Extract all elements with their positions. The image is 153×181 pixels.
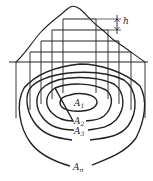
contour-an [19, 64, 144, 166]
profile-curve [16, 6, 145, 62]
contour-label-an: An [72, 162, 84, 173]
contour-label-a3: A3 [73, 126, 85, 137]
height-label: h [123, 16, 129, 26]
contour-label-a1: A1 [73, 98, 84, 109]
contour-diagram: h A1 A2 A3 An [0, 0, 153, 181]
